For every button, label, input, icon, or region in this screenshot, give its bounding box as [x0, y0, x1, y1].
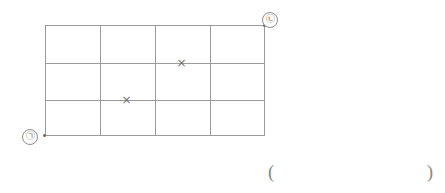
answer-paren-close: ) — [427, 158, 433, 186]
endpoint-dot-a — [43, 134, 46, 137]
grid-line-vertical — [210, 25, 211, 136]
grid-line-vertical — [100, 25, 101, 136]
grid-line-vertical — [155, 25, 156, 136]
grid-line-vertical — [264, 25, 265, 136]
label-point-b: ㉡ — [262, 12, 278, 28]
grid-path-diagram: ㉠ ㉡ × × ( ) — [0, 0, 445, 193]
grid-line-vertical — [45, 25, 46, 136]
grid-line-horizontal — [45, 135, 265, 136]
answer-blank[interactable]: ( ) — [268, 158, 433, 186]
label-point-a: ㉠ — [22, 129, 38, 145]
x-mark-lower: × — [120, 94, 133, 107]
grid — [45, 25, 265, 136]
x-mark-upper: × — [175, 57, 188, 70]
grid-line-horizontal — [45, 63, 265, 64]
answer-paren-open: ( — [268, 158, 274, 186]
grid-line-horizontal — [45, 25, 265, 26]
grid-line-horizontal — [45, 100, 265, 101]
